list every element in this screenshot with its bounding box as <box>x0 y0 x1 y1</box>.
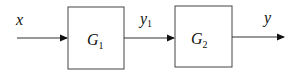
output-signal: y <box>232 9 284 37</box>
block-g1: G1 <box>68 7 124 69</box>
block-g2-box <box>175 6 232 67</box>
block-diagram: x G1 y1 G2 y <box>0 0 298 72</box>
output-label: y <box>262 9 272 27</box>
input-label: x <box>15 11 23 28</box>
block-g2: G2 <box>175 6 232 67</box>
intermediate-label: y1 <box>138 10 152 29</box>
intermediate-signal: y1 <box>124 10 174 38</box>
input-signal: x <box>15 11 67 38</box>
